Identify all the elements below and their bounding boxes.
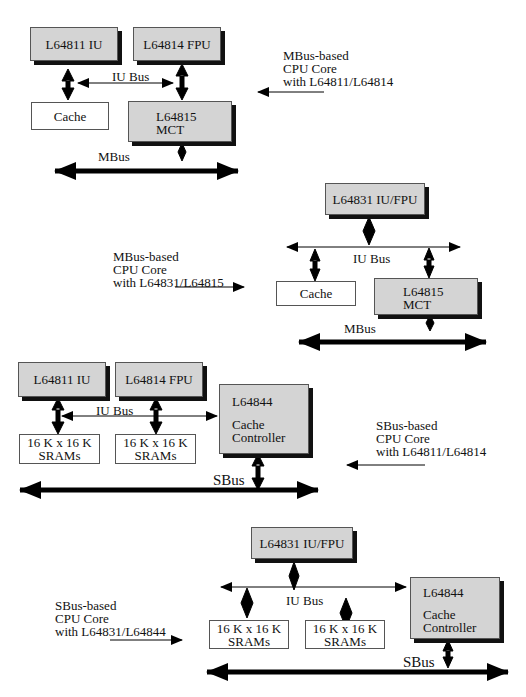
block-label-line: Controller: [232, 431, 308, 444]
block-label-line: SRAMs: [39, 449, 81, 462]
cache-block: Cache: [276, 281, 356, 306]
l64815-mct-block: L64815 MCT: [128, 101, 232, 142]
iu-bus-label: IU Bus: [112, 70, 149, 83]
block-label: L64814 FPU: [143, 38, 211, 51]
iu-bus-label: IU Bus: [353, 252, 390, 265]
caption-line: with L64831/L64844: [55, 625, 166, 638]
l64815-mct-block: L64815 MCT: [374, 278, 478, 315]
block-label-line: SRAMs: [228, 635, 270, 648]
block-label: L64811 IU: [34, 373, 91, 386]
caption-sbus-l64811-l64814: SBus-based CPU Core with L64811/L64814: [376, 419, 486, 458]
block-label: L64831 IU/FPU: [333, 193, 418, 206]
sram-block-2: 16 K x 16 K SRAMs: [115, 434, 196, 464]
l64814-fpu-block: L64814 FPU: [133, 27, 221, 61]
mbus-label: MBus: [344, 322, 376, 335]
block-label: Cache: [300, 287, 332, 300]
l64844-cache-controller-block: L64844 Cache Controller: [219, 384, 309, 454]
iu-bus-label: IU Bus: [96, 404, 133, 417]
block-label-line: SRAMs: [135, 449, 177, 462]
block-label-line: MCT: [403, 298, 477, 311]
caption-sbus-l64831-l64844: SBus-based CPU Core with L64831/L64844: [55, 599, 166, 638]
l64811-iu-block: L64811 IU: [30, 27, 118, 61]
l64811-iu-block: L64811 IU: [18, 362, 106, 397]
mbus-label: MBus: [98, 150, 130, 163]
block-label-line: SRAMs: [324, 635, 366, 648]
iu-bus-label: IU Bus: [286, 594, 323, 607]
caption-mbus-l64831-l64815: MBus-based CPU Core with L64831/L64815: [113, 250, 224, 289]
block-label-line: 16 K x 16 K: [217, 622, 281, 635]
l64814-fpu-block: L64814 FPU: [115, 362, 203, 397]
sram-block-1: 16 K x 16 K SRAMs: [19, 434, 100, 464]
block-label-line: L64844: [423, 586, 499, 599]
block-label-line: Controller: [423, 621, 499, 634]
caption-mbus-l64811-l64814: MBus-based CPU Core with L64811/L64814: [283, 49, 393, 88]
sbus-label: SBus: [213, 474, 245, 487]
l64831-iufpu-block: L64831 IU/FPU: [325, 183, 425, 215]
sram-block-2: 16 K x 16 K SRAMs: [305, 620, 385, 649]
l64844-cache-controller-block: L64844 Cache Controller: [410, 577, 500, 639]
sram-block-1: 16 K x 16 K SRAMs: [209, 620, 289, 649]
cache-block: Cache: [31, 102, 109, 130]
block-label: L64811 IU: [46, 38, 103, 51]
caption-line: with L64831/L64815: [113, 276, 224, 289]
block-label-line: 16 K x 16 K: [313, 622, 377, 635]
caption-line: with L64811/L64814: [376, 445, 486, 458]
block-label: L64814 FPU: [125, 373, 193, 386]
sbus-label: SBus: [403, 656, 435, 669]
l64831-iufpu-block: L64831 IU/FPU: [251, 527, 353, 559]
block-label: Cache: [54, 110, 86, 123]
caption-line: with L64811/L64814: [283, 75, 393, 88]
block-label-line: MCT: [156, 123, 231, 136]
block-label-line: L64844: [232, 395, 308, 408]
block-label: L64831 IU/FPU: [260, 537, 345, 550]
